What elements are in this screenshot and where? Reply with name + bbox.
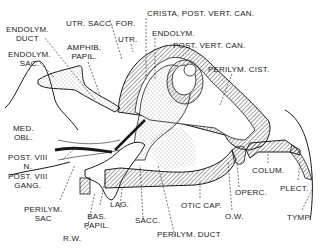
label-o-w: O.W. [225,212,244,221]
label-operc: OPERC. [235,188,267,197]
label-colum: COLUM. [252,166,284,175]
label-post-vert-can: POST. VERT. CAN. [173,41,245,50]
tympanum [285,110,312,220]
label-sacc: SACC. [135,216,160,225]
label-bas-papil: BAS.PAPIL. [84,212,110,230]
label-otic-cap: OTIC CAP. [181,201,222,210]
saccule [150,128,196,170]
label-utr-sacc-for: UTR. SACC. FOR. [66,19,136,28]
label-plect: PLECT. [280,184,308,193]
label-lag: LAG. [110,200,129,209]
ear-diagram: ENDOLYM.DUCT ENDOLYM.SAC. UTR. SACC. FOR… [0,0,329,251]
label-crista-post-vert-can: CRISTA, POST. VERT. CAN. [147,9,254,18]
label-med-obl: MED.OBL. [13,124,34,142]
label-utr: UTR. [118,35,137,44]
label-post-viii-gang: POST. VIIIGANG. [8,172,47,190]
label-endolym: ENDOLYM. [152,29,195,38]
label-amphib-papil: AMPHIB.PAPIL. [67,43,101,61]
label-perilym-duct: PERILYM. DUCT [157,230,221,239]
label-post-viii-n: POST. VIIIN. [8,153,47,171]
label-perilym-cist: PERILYM. CIST. [208,65,269,74]
endolymphatic-sac [38,66,120,112]
label-endolym-duct: ENDOLYM.DUCT [6,25,49,43]
label-tymp: TYMP. [287,213,311,222]
label-r-w: R.W. [63,234,81,243]
label-endolym-sac: ENDOLYM.SAC. [8,50,51,68]
label-perilym-sac: PERILYM.SAC [24,205,62,223]
